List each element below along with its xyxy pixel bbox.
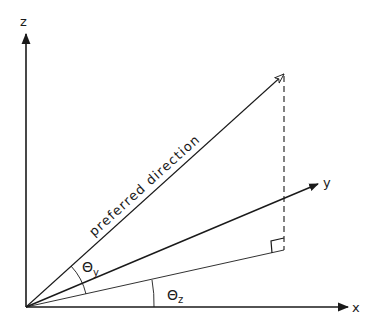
diagram-canvas: z x y preferred direction Θy Θz bbox=[0, 0, 378, 327]
z-axis-label: z bbox=[20, 14, 27, 29]
projection-line bbox=[26, 250, 284, 307]
x-axis-label: x bbox=[352, 300, 360, 315]
preferred-direction-vector bbox=[26, 74, 284, 307]
theta-y-label: Θy bbox=[82, 259, 99, 278]
theta-z-label: Θz bbox=[167, 287, 183, 305]
theta-z-arc bbox=[152, 280, 154, 307]
preferred-direction-label: preferred direction bbox=[86, 131, 203, 239]
y-axis-label: y bbox=[323, 175, 331, 190]
